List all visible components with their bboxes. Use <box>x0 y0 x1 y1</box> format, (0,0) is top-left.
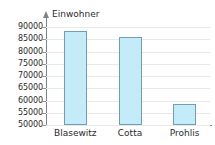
y-axis-tick <box>42 39 46 40</box>
y-axis-tick <box>42 113 46 114</box>
y-axis-title: Einwohner <box>52 9 99 20</box>
y-axis-tick <box>42 27 46 28</box>
y-axis-tick <box>42 64 46 65</box>
gridline <box>46 27 210 28</box>
y-axis-tick-label: 75000 <box>1 60 43 68</box>
gridline <box>46 125 210 126</box>
up-arrow-icon <box>43 11 49 18</box>
y-axis-tick <box>42 76 46 77</box>
y-axis-tick <box>42 125 46 126</box>
y-axis-tick-label: 85000 <box>1 35 43 43</box>
x-axis-tick-label: Prohlis <box>145 128 215 139</box>
y-axis-tick-label: 90000 <box>1 23 43 31</box>
plot-area <box>46 20 210 125</box>
y-axis-tick <box>42 88 46 89</box>
y-axis-tick-labels: 5000055000600006500070000750008000085000… <box>0 0 43 145</box>
bar <box>173 104 196 125</box>
y-axis-tick <box>42 101 46 102</box>
y-axis-tick-label: 55000 <box>1 109 43 117</box>
y-axis-tick-label: 60000 <box>1 97 43 105</box>
y-axis-tick-label: 70000 <box>1 72 43 80</box>
bar <box>64 31 87 125</box>
bar-chart: 5000055000600006500070000750008000085000… <box>0 0 215 145</box>
bar <box>119 37 142 125</box>
y-axis-tick <box>42 52 46 53</box>
y-axis-tick-label: 80000 <box>1 48 43 56</box>
y-axis-tick-label: 65000 <box>1 84 43 92</box>
